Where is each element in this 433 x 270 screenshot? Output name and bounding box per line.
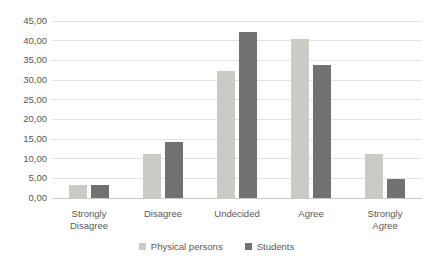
y-axis-tick-label: 10,00: [0, 154, 47, 164]
bar-chart: Physical persons Students 0,005,0010,001…: [0, 0, 433, 270]
legend-label-physical-persons: Physical persons: [151, 241, 223, 252]
category-label: Disagree: [126, 208, 200, 220]
category-label: Strongly Agree: [348, 208, 422, 232]
bar-physical-persons: [69, 185, 87, 198]
gridline: [52, 80, 422, 81]
y-axis-tick-label: 35,00: [0, 55, 47, 65]
y-axis-tick-label: 30,00: [0, 75, 47, 85]
category-label: Undecided: [200, 208, 274, 220]
bar-physical-persons: [365, 154, 383, 198]
gridline: [52, 21, 422, 22]
bar-students: [239, 32, 257, 198]
y-axis-tick-label: 5,00: [0, 173, 47, 183]
category-label: Agree: [274, 208, 348, 220]
y-axis-tick-label: 45,00: [0, 16, 47, 26]
bar-physical-persons: [143, 154, 161, 198]
legend-swatch-physical-persons: [139, 243, 146, 250]
y-axis-tick-label: 0,00: [0, 193, 47, 203]
bar-physical-persons: [217, 71, 235, 198]
gridline: [52, 119, 422, 120]
y-axis-tick-label: 40,00: [0, 36, 47, 46]
bar-students: [387, 179, 405, 198]
y-axis-tick-label: 15,00: [0, 134, 47, 144]
y-axis-tick-label: 25,00: [0, 95, 47, 105]
gridline: [52, 139, 422, 140]
x-axis-line: [52, 198, 422, 199]
category-label: Strongly Disagree: [52, 208, 126, 232]
legend-item-physical-persons: Physical persons: [139, 241, 223, 252]
legend-swatch-students: [245, 243, 252, 250]
bar-students: [165, 142, 183, 198]
y-axis-tick-label: 20,00: [0, 114, 47, 124]
bar-physical-persons: [291, 39, 309, 198]
gridline: [52, 40, 422, 41]
bar-students: [91, 185, 109, 198]
bar-students: [313, 65, 331, 198]
legend-label-students: Students: [257, 241, 295, 252]
gridline: [52, 99, 422, 100]
gridline: [52, 60, 422, 61]
chart-legend: Physical persons Students: [0, 241, 433, 252]
legend-item-students: Students: [245, 241, 295, 252]
